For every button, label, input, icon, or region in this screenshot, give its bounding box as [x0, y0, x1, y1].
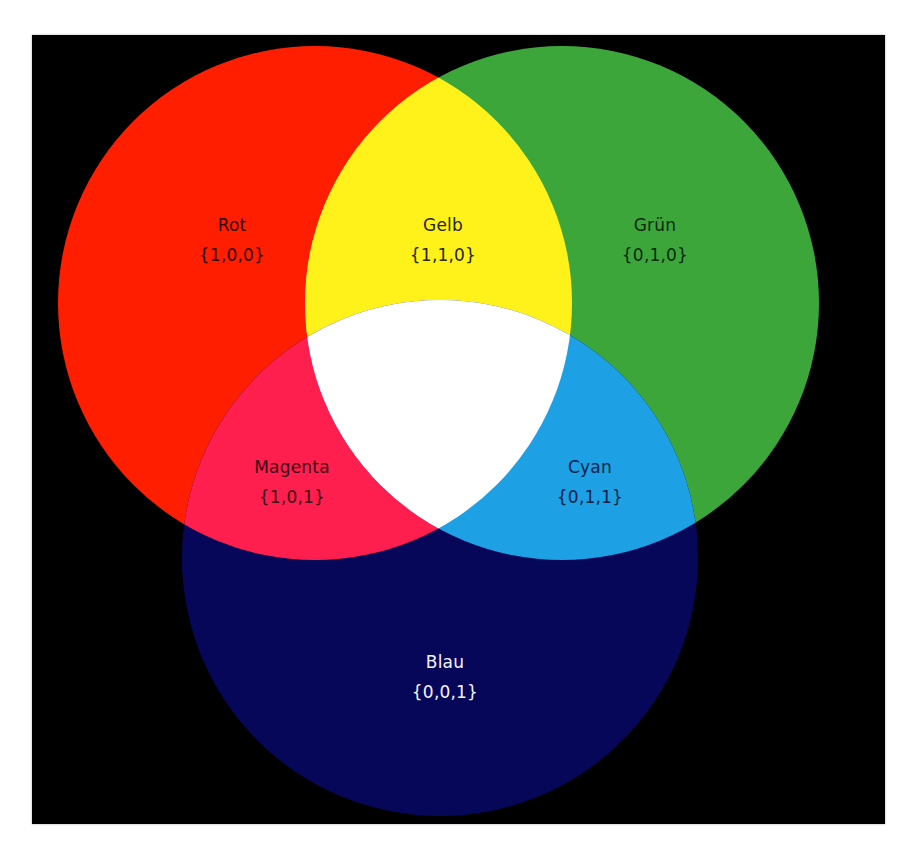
label-magenta: Magenta {1,0,1} [254, 452, 330, 512]
label-cyan-name: Cyan [557, 452, 623, 482]
label-cyan: Cyan {0,1,1} [557, 452, 623, 512]
label-gruen: Grün {0,1,0} [622, 210, 688, 270]
label-magenta-name: Magenta [254, 452, 330, 482]
label-blau-name: Blau [412, 647, 478, 677]
label-blau: Blau {0,0,1} [412, 647, 478, 707]
label-gelb-set: {1,1,0} [410, 240, 476, 270]
rgb-venn-diagram [0, 0, 913, 850]
label-magenta-set: {1,0,1} [254, 482, 330, 512]
label-rot-name: Rot [199, 210, 265, 240]
label-cyan-set: {0,1,1} [557, 482, 623, 512]
label-gelb: Gelb {1,1,0} [410, 210, 476, 270]
label-gruen-name: Grün [622, 210, 688, 240]
label-rot: Rot {1,0,0} [199, 210, 265, 270]
label-gruen-set: {0,1,0} [622, 240, 688, 270]
label-rot-set: {1,0,0} [199, 240, 265, 270]
label-blau-set: {0,0,1} [412, 677, 478, 707]
label-gelb-name: Gelb [410, 210, 476, 240]
